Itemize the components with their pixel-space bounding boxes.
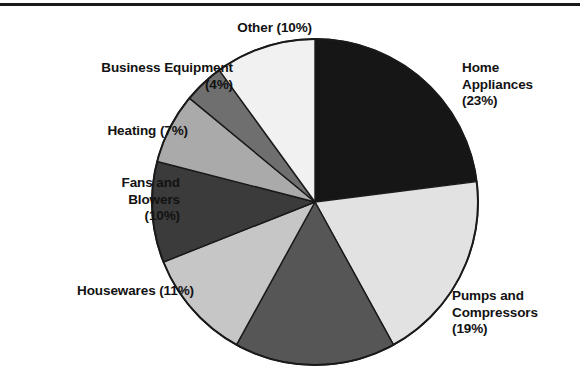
pie-slice-home-appliances bbox=[315, 39, 477, 202]
slice-label-home-appliances: Home Appliances (23%) bbox=[462, 60, 578, 110]
slice-label-other: Other (10%) bbox=[152, 20, 312, 37]
slice-label-business-equipment: Business Equipment (4%) bbox=[8, 60, 233, 93]
pie-chart-figure: Other (10%) Business Equipment (4%) Heat… bbox=[0, 0, 580, 379]
slice-label-housewares: Housewares (11%) bbox=[8, 283, 194, 300]
slice-label-fans-and-blowers: Fans and Blowers (10%) bbox=[8, 175, 180, 225]
slice-label-heating: Heating (7%) bbox=[8, 123, 188, 140]
top-horizontal-rule bbox=[0, 3, 580, 6]
slice-label-pumps-and-compressors: Pumps and Compressors (19%) bbox=[452, 288, 578, 338]
